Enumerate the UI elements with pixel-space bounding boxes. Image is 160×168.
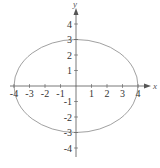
y-axis-arrow-icon — [74, 8, 79, 15]
x-tick-label: -2 — [41, 88, 49, 99]
x-tick-labels: -4 -3 -2 -1 1 2 3 4 — [10, 88, 141, 99]
x-tick-label: -3 — [25, 88, 33, 99]
x-tick-label: -4 — [10, 88, 18, 99]
y-tick-label: -4 — [64, 143, 72, 154]
y-tick-label: -1 — [64, 96, 72, 107]
x-axis-label: x — [152, 81, 157, 91]
y-tick-label: -2 — [64, 112, 72, 123]
x-tick-label: 2 — [105, 88, 110, 99]
y-tick-label: -3 — [64, 127, 72, 138]
y-tick-label: 4 — [67, 19, 72, 30]
y-tick-label: 2 — [67, 50, 72, 61]
x-tick-label: 4 — [136, 88, 141, 99]
ellipse-chart: x y -4 -3 -2 -1 1 2 3 4 4 3 — [0, 0, 160, 168]
y-tick-label: 3 — [67, 34, 72, 45]
x-tick-label: 1 — [89, 88, 94, 99]
x-axis-arrow-icon — [144, 84, 151, 89]
y-axis-label: y — [72, 0, 77, 9]
x-tick-label: 3 — [120, 88, 125, 99]
y-tick-label: 1 — [67, 65, 72, 76]
